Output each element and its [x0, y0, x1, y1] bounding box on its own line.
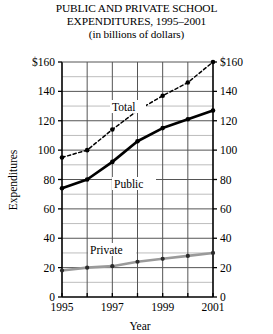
x-tick-label: 1999 — [151, 301, 174, 313]
y-tick-label-right: 60 — [220, 203, 232, 215]
data-point-private — [85, 266, 89, 270]
data-point-total — [211, 60, 216, 65]
data-point-private — [60, 268, 64, 272]
y-tick-label-left: $160 — [32, 56, 55, 68]
y-tick-label-right: 80 — [220, 174, 232, 186]
y-tick-label-left: 20 — [44, 262, 56, 274]
data-point-public — [135, 139, 140, 144]
data-point-total — [186, 80, 191, 85]
data-point-private — [211, 251, 215, 255]
data-point-public — [110, 160, 115, 165]
y-tick-label-right: 140 — [220, 85, 238, 97]
x-tick-label: 2001 — [202, 301, 225, 313]
y-tick-label-right: 120 — [220, 115, 238, 127]
data-point-public — [85, 177, 90, 182]
series-inline-labels: Total Public Private — [88, 100, 156, 256]
data-point-public — [186, 117, 191, 122]
data-point-private — [110, 264, 114, 268]
data-point-public — [211, 108, 216, 113]
series-label-private: Private — [90, 244, 123, 256]
series-label-public: Public — [114, 178, 143, 190]
y-tick-label-left: 60 — [44, 203, 56, 215]
y-tick-label-right: $160 — [220, 56, 243, 68]
data-point-total — [60, 155, 65, 160]
data-point-public — [60, 186, 65, 191]
data-point-private — [135, 260, 139, 264]
expenditures-line-chart: PUBLIC AND PRIVATE SCHOOL EXPENDITURES, … — [0, 0, 273, 334]
y-tick-label-right: 40 — [220, 232, 232, 244]
plot-area: 020406080100120140$160 02040608010012014… — [0, 0, 273, 334]
y-tick-label-left: 100 — [38, 144, 56, 156]
data-point-total — [160, 93, 165, 98]
x-tick-label: 1997 — [101, 301, 124, 313]
x-axis-labels: 1995199719992001 — [51, 301, 225, 313]
y-tick-label-left: 120 — [38, 115, 56, 127]
data-point-public — [160, 126, 165, 131]
data-point-private — [161, 257, 165, 261]
x-axis-title: Year — [129, 320, 150, 332]
y-tick-label-left: 80 — [44, 174, 56, 186]
data-point-total — [110, 127, 115, 132]
series-label-total: Total — [112, 101, 135, 113]
y-tick-label-left: 40 — [44, 232, 56, 244]
data-point-total — [85, 148, 90, 153]
y-axis-left-labels: 020406080100120140$160 — [32, 56, 55, 303]
y-tick-label-left: 140 — [38, 85, 56, 97]
y-axis-title: Expenditures — [7, 149, 20, 210]
x-tick-label: 1995 — [51, 301, 74, 313]
y-tick-label-right: 100 — [220, 144, 238, 156]
y-axis-right-labels: 020406080100120140$160 — [220, 56, 243, 303]
data-point-private — [186, 254, 190, 258]
y-tick-label-right: 20 — [220, 262, 232, 274]
